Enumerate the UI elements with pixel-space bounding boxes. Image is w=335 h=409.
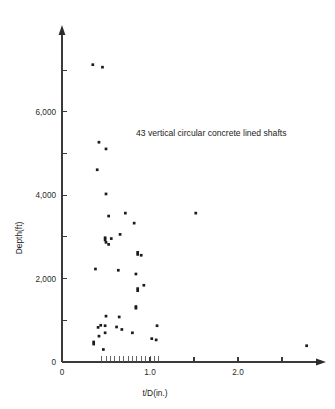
data-point xyxy=(124,212,127,215)
x-axis-title: t/D(in.) xyxy=(142,388,167,398)
data-point xyxy=(96,168,99,171)
data-point xyxy=(119,233,122,236)
data-point xyxy=(136,253,139,256)
data-point xyxy=(110,237,113,240)
x-tick-label: 1.0 xyxy=(144,368,156,377)
data-point xyxy=(101,66,104,69)
data-point xyxy=(104,324,107,327)
data-point xyxy=(92,343,95,346)
x-tick-label: 2.0 xyxy=(232,368,244,377)
data-point xyxy=(105,315,108,318)
data-point xyxy=(102,348,105,351)
data-point xyxy=(98,335,101,338)
y-tick-label: 2,000 xyxy=(36,275,57,284)
data-point xyxy=(99,324,102,327)
data-point xyxy=(142,284,145,287)
data-point xyxy=(135,273,138,276)
data-point xyxy=(150,337,153,340)
data-point xyxy=(104,238,107,241)
chart-annotation: 43 vertical circular concrete lined shaf… xyxy=(136,128,286,138)
data-point xyxy=(115,326,118,329)
data-point xyxy=(133,222,136,225)
x-axis-arrow-icon xyxy=(316,359,326,366)
data-point xyxy=(105,193,108,196)
plot-canvas: 02,0004,0006,000 01.02.0 t/D(in.) Depth(… xyxy=(0,0,335,409)
data-point xyxy=(135,307,138,310)
data-point-group xyxy=(91,63,308,351)
y-tick-label: 6,000 xyxy=(36,108,57,117)
y-axis-arrow-icon xyxy=(59,25,66,35)
data-point xyxy=(97,326,100,329)
data-point xyxy=(91,63,94,66)
data-point xyxy=(140,254,143,257)
data-point xyxy=(156,324,159,327)
data-point xyxy=(98,141,101,144)
y-axis xyxy=(59,25,66,362)
y-axis-title: Depth(ft) xyxy=(14,222,24,255)
data-point xyxy=(105,148,108,151)
data-point xyxy=(155,339,158,342)
data-point xyxy=(305,344,308,347)
scatter-plot-figure: 02,0004,0006,000 01.02.0 t/D(in.) Depth(… xyxy=(0,0,335,409)
data-point xyxy=(105,241,108,244)
data-point xyxy=(194,212,197,215)
x-minor-tick-group xyxy=(102,356,159,363)
y-tick-label: 4,000 xyxy=(36,191,57,200)
data-point xyxy=(107,243,110,246)
data-point xyxy=(107,215,110,218)
data-point xyxy=(120,328,123,331)
x-tick-label: 0 xyxy=(60,368,65,377)
data-point xyxy=(131,331,134,334)
data-point xyxy=(104,331,107,334)
y-tick-label: 0 xyxy=(51,358,56,367)
data-point xyxy=(117,269,120,272)
data-point xyxy=(94,268,97,271)
x-tick-group: 01.02.0 xyxy=(60,357,282,377)
data-point xyxy=(136,289,139,292)
data-point xyxy=(118,316,121,319)
